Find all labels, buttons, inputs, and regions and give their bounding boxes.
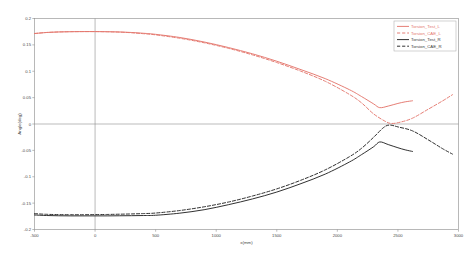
y-tick-label: 0.2 [25,16,31,21]
y-tick-label: -0.15 [21,201,31,206]
x-tick-label: 3000 [454,233,464,238]
chart-figure: -500050010001500200025003000 0.20.150.10… [0,0,472,258]
chart-svg: -500050010001500200025003000 0.20.150.10… [0,0,472,258]
x-tick-label: 2500 [393,233,403,238]
x-tick-label: 1000 [212,233,222,238]
y-tick-label: 0.05 [23,95,32,100]
legend-label: Torsion_Test_L [411,24,441,29]
legend-label: Torsion_Test_R [411,37,441,42]
x-tick-label: 1500 [272,233,282,238]
chart-legend: Torsion_Test_LTorsion_CAE_LTorsion_Test_… [394,21,456,51]
x-tick-label: 500 [152,233,160,238]
y-tick-label: 0.1 [25,69,31,74]
x-tick-label: 2000 [333,233,343,238]
legend-label: Torsion_CAE_L [411,31,441,36]
y-tick-label: 0.15 [23,42,32,47]
y-tick-label: -0.05 [21,148,31,153]
legend-label: Torsion_CAE_R [411,44,442,49]
x-tick-label: -500 [30,233,39,238]
x-axis-title: x(mm) [240,240,253,245]
y-tick-label: -0.2 [24,227,32,232]
y-tick-label: -0.1 [24,174,32,179]
y-axis-title: Angle(deg) [17,113,22,135]
